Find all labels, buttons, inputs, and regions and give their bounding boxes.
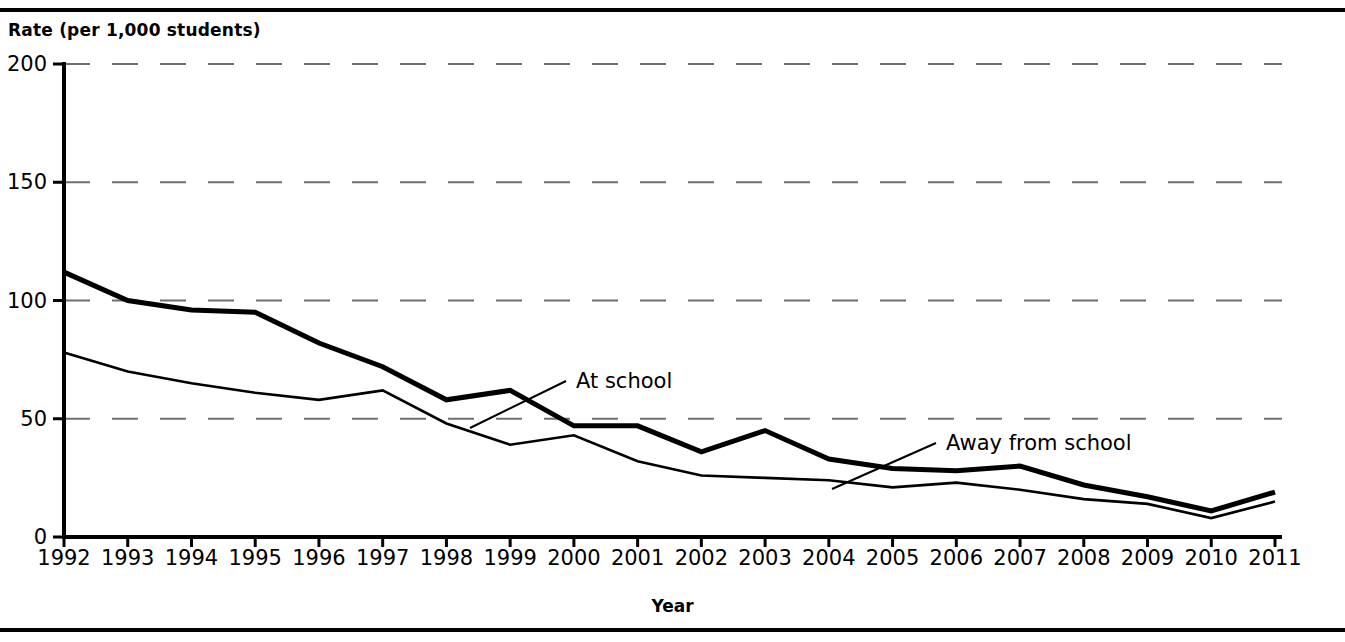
x-tick-label: 2002 <box>675 546 728 570</box>
y-tick-label: 100 <box>0 289 47 313</box>
x-tick-label: 1997 <box>356 546 409 570</box>
x-tick-label: 1992 <box>37 546 90 570</box>
y-tick-label: 200 <box>0 52 47 76</box>
series-label-away-from-school: Away from school <box>946 431 1132 455</box>
x-tick-label: 2011 <box>1248 546 1301 570</box>
x-tick-label: 2005 <box>866 546 919 570</box>
x-tick-label: 1999 <box>483 546 536 570</box>
x-tick-label: 2006 <box>930 546 983 570</box>
leader-line-away-from-school <box>832 443 936 489</box>
x-tick-label: 2010 <box>1185 546 1238 570</box>
x-tick-label: 2000 <box>547 546 600 570</box>
x-tick-label: 1993 <box>101 546 154 570</box>
x-tick-label: 1998 <box>420 546 473 570</box>
leader-line-at-school <box>470 381 566 428</box>
series-label-at-school: At school <box>576 369 672 393</box>
x-tick-label: 2008 <box>1057 546 1110 570</box>
chart-figure: Rate (per 1,000 students) Year 050100150… <box>0 0 1345 642</box>
x-tick-label: 1995 <box>228 546 281 570</box>
x-tick-label: 2007 <box>993 546 1046 570</box>
x-tick-label: 2003 <box>738 546 791 570</box>
axis-lines <box>64 62 1282 537</box>
x-tick-label: 1994 <box>165 546 218 570</box>
y-tick-label: 50 <box>0 407 47 431</box>
x-tick-label: 2001 <box>611 546 664 570</box>
y-tick-label: 150 <box>0 170 47 194</box>
x-tick-label: 1996 <box>292 546 345 570</box>
x-tick-label: 2009 <box>1121 546 1174 570</box>
x-tick-label: 2004 <box>802 546 855 570</box>
